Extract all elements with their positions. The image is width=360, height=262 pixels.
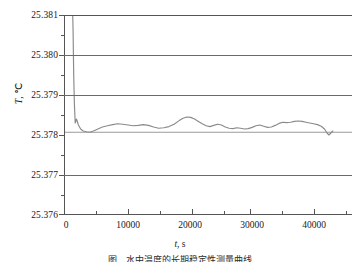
y-tick-label-1: 25.380 [12,50,58,60]
y-tick-minor-4 [61,155,64,156]
x-tick-label-2: 20000 [168,220,212,230]
x-tick-label-3: 30000 [230,220,274,230]
x-axis-title-unit: s [182,239,186,249]
x-tick-label-4: 40000 [292,220,336,230]
gridline-25-380 [64,55,352,56]
gridline-25-377 [64,175,352,176]
y-tick-minor-1 [61,35,64,36]
y-tick-minor-5 [61,195,64,196]
x-tick-minor-5 [346,211,347,214]
y-tick-major-25-377 [59,175,64,176]
y-tick-major-25-378 [59,135,64,136]
figure-root: T, ℃ 25.381 25.380 25.379 25.378 25.377 … [0,0,360,262]
y-tick-major-25-376 [59,214,64,215]
x-axis-line [64,214,352,215]
x-tick-minor-4 [282,211,283,214]
x-axis-title: t, s [0,239,360,249]
chart-canvas [64,15,352,215]
x-tick-major-20000 [192,209,193,214]
y-tick-label-0: 25.381 [12,10,58,20]
x-tick-minor-1 [96,211,97,214]
plot-top-border [64,15,352,16]
x-tick-minor-2 [160,211,161,214]
x-tick-label-0: 0 [44,220,88,230]
x-tick-major-40000 [314,209,315,214]
gridline-25-379 [64,95,352,96]
x-tick-major-30000 [250,209,251,214]
y-tick-major-25-380 [59,55,64,56]
x-tick-minor-3 [224,211,225,214]
y-tick-minor-2 [61,75,64,76]
plot-area [64,15,352,215]
x-tick-label-1: 10000 [106,220,150,230]
y-tick-label-4: 25.377 [12,170,58,180]
y-tick-label-5: 25.376 [12,210,58,220]
y-tick-minor-3 [61,115,64,116]
y-tick-label-2: 25.379 [12,90,58,100]
y-tick-major-25-381 [59,15,64,16]
y-tick-major-25-379 [59,95,64,96]
data-series-line [73,15,333,135]
y-tick-label-3: 25.378 [12,130,58,140]
x-tick-major-10000 [128,209,129,214]
y-axis-line [64,15,65,215]
figure-caption: 图 水中温度的长期稳定性测量曲线 [0,255,360,262]
